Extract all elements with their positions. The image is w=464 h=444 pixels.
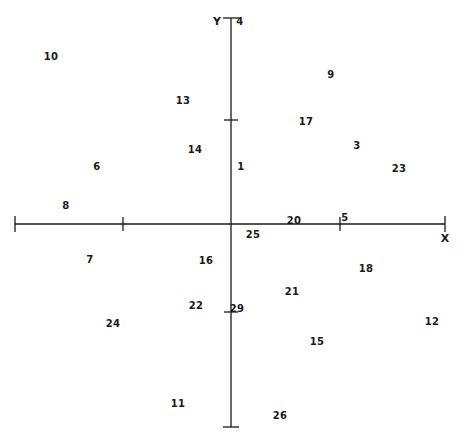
data-point-label: 10 [44, 52, 59, 62]
data-point-label: 16 [199, 256, 214, 266]
y-axis-label: Y [213, 16, 221, 27]
data-point-label: 14 [188, 145, 203, 155]
data-point-label: 3 [353, 141, 360, 151]
data-point-label: 26 [273, 411, 288, 421]
axes-group [15, 18, 445, 427]
data-point-label: 6 [93, 162, 100, 172]
data-point-label: 20 [287, 216, 302, 226]
data-point-label: 8 [62, 201, 69, 211]
data-point-label: 22 [189, 301, 204, 311]
data-point-label: 4 [236, 17, 243, 27]
data-point-label: 21 [285, 287, 300, 297]
data-point-label: 15 [310, 337, 325, 347]
data-point-label: 11 [171, 399, 186, 409]
data-point-label: 13 [176, 96, 191, 106]
x-axis-label: X [441, 233, 449, 244]
data-point-label: 23 [392, 164, 407, 174]
data-point-label: 17 [299, 117, 314, 127]
data-point-label: 25 [246, 230, 261, 240]
data-point-label: 18 [359, 264, 374, 274]
scatter-plot-figure: 1049131714312368205257161821222924151211… [0, 0, 464, 444]
plot-axes-svg [0, 0, 464, 444]
data-point-label: 29 [230, 304, 245, 314]
data-point-label: 9 [327, 70, 334, 80]
data-point-label: 5 [341, 213, 348, 223]
data-point-label: 1 [237, 162, 244, 172]
data-point-label: 24 [106, 319, 121, 329]
data-point-label: 12 [425, 317, 440, 327]
data-point-label: 7 [86, 255, 93, 265]
